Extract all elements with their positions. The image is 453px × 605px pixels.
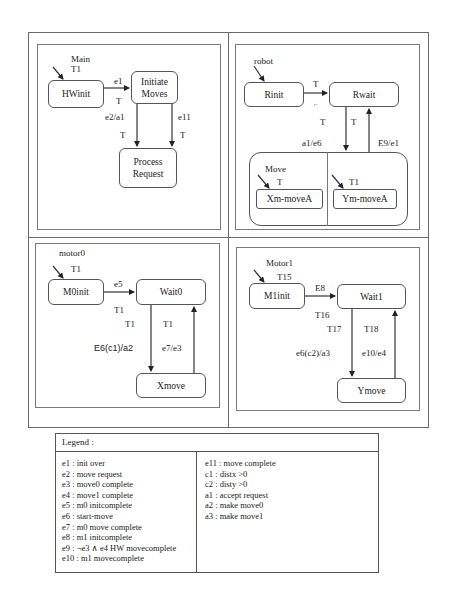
state-rinit-label: Rinit (264, 89, 283, 101)
legend-item: e11 : move complete (205, 458, 378, 469)
vertical-divider (228, 32, 229, 428)
state-ym-movea[interactable]: Ym-moveA (333, 189, 397, 209)
legend-left-column: e1 : init over e2 : move request e3 : mo… (56, 451, 197, 572)
legend-item: e4 : move1 complete (62, 490, 196, 501)
transition-label-e10-e4: e10/e4 (362, 348, 386, 358)
transition-label-e5: e5 (114, 279, 123, 289)
transition-label-t16: T16 (315, 310, 330, 320)
transition-label-e6-c1-a2: E6(c1)/a2 (94, 343, 133, 353)
legend-item: e6 : start-move (62, 511, 196, 522)
legend-item: c2 : disty >0 (205, 479, 378, 490)
main-init-label: T1 (71, 64, 81, 74)
legend-item: e2 : move request (62, 469, 196, 480)
state-xmove[interactable]: Xmove (136, 373, 206, 398)
legend: Legend : e1 : init over e2 : move reques… (55, 433, 379, 573)
robot-title: robot (254, 56, 273, 66)
main-title: Main (71, 54, 90, 64)
state-ymove-label: Ymove (358, 385, 386, 397)
legend-item: e1 : init over (62, 458, 196, 469)
transition-label-t: T (320, 117, 326, 127)
legend-item: a2 : make move0 (205, 500, 378, 511)
move-left-init-label: T (277, 177, 283, 187)
state-wait0[interactable]: Wait0 (136, 279, 206, 305)
state-initiate-moves-label: Initiate Moves (134, 76, 175, 100)
transition-label-t: T (313, 79, 319, 89)
state-wait0-label: Wait0 (160, 286, 182, 298)
legend-item: e10 : m1 movecomplete (62, 553, 196, 564)
transition-label-t1: T1 (125, 319, 135, 329)
transition-label-mark: ⌐ (314, 100, 318, 110)
transition-label-e7-e3: e7/e3 (162, 343, 182, 353)
legend-item: e9 : ¬e3 ∧ e4 HW movecomplete (62, 543, 196, 554)
transition-label-t: T (120, 130, 126, 140)
state-m1init[interactable]: M1init (249, 283, 305, 309)
legend-item: e5 : m0 initcomplete (62, 500, 196, 511)
transition-label-t: T (116, 96, 122, 106)
legend-item: e3 : move0 complete (62, 479, 196, 490)
move-title: Move (265, 164, 286, 174)
transition-label-t: T (351, 117, 357, 127)
transition-label-t1: T1 (163, 319, 173, 329)
state-wait1[interactable]: Wait1 (337, 284, 406, 309)
state-m1init-label: M1init (264, 290, 290, 302)
move-right-init-label: T1 (349, 177, 359, 187)
transition-label-t1: T1 (114, 305, 124, 315)
transition-label-t: T (180, 130, 186, 140)
transition-label-a1-e6: a1/e6 (302, 138, 322, 148)
move-region-divider (327, 152, 328, 226)
transition-label-e9-e1: E9/e1 (378, 138, 399, 148)
state-hwinit-label: HWinit (62, 88, 90, 100)
state-ym-movea-label: Ym-moveA (342, 193, 387, 205)
state-xmove-label: Xmove (157, 380, 185, 392)
state-m0init[interactable]: M0init (48, 279, 104, 305)
state-process-request-label: Process Request (124, 156, 172, 180)
legend-item: e8 : m1 initcomplete (62, 532, 196, 543)
state-m0init-label: M0init (63, 286, 89, 298)
motor0-title: motor0 (59, 248, 85, 258)
legend-title: Legend : (56, 434, 378, 452)
state-hwinit[interactable]: HWinit (48, 80, 104, 108)
state-initiate-moves[interactable]: Initiate Moves (131, 71, 178, 104)
state-rwait-label: Rwait (353, 89, 376, 101)
legend-item: c1 : distx >0 (205, 469, 378, 480)
state-rinit[interactable]: Rinit (244, 82, 304, 107)
state-xm-movea-label: Xm-moveA (267, 193, 312, 205)
motor1-init-label: T15 (277, 272, 292, 282)
transition-label-e6-c2-a3: e6(c2)/a3 (296, 348, 330, 358)
horizontal-divider (28, 237, 429, 238)
state-process-request[interactable]: Process Request (119, 148, 177, 188)
legend-item: e7 : m0 move complete (62, 522, 196, 533)
transition-label-t17: T17 (327, 324, 342, 334)
transition-label-t18: T18 (364, 324, 379, 334)
state-rwait[interactable]: Rwait (329, 82, 399, 107)
transition-label-e1: e1 (114, 76, 123, 86)
legend-item: a1 : accept request (205, 490, 378, 501)
legend-right-column: e11 : move complete c1 : distx >0 c2 : d… (197, 451, 378, 572)
transition-label-e11: e11 (178, 112, 191, 122)
panel-main (37, 44, 221, 230)
state-xm-movea[interactable]: Xm-moveA (256, 189, 323, 209)
motor0-init-label: T1 (71, 264, 81, 274)
motor1-title: Motor1 (266, 258, 293, 268)
transition-label-e8: E8 (315, 283, 325, 293)
transition-label-e2-a1: e2/a1 (105, 112, 125, 122)
legend-item: a3 : make move1 (205, 511, 378, 522)
state-wait1-label: Wait1 (360, 291, 382, 303)
state-ymove[interactable]: Ymove (337, 378, 406, 403)
